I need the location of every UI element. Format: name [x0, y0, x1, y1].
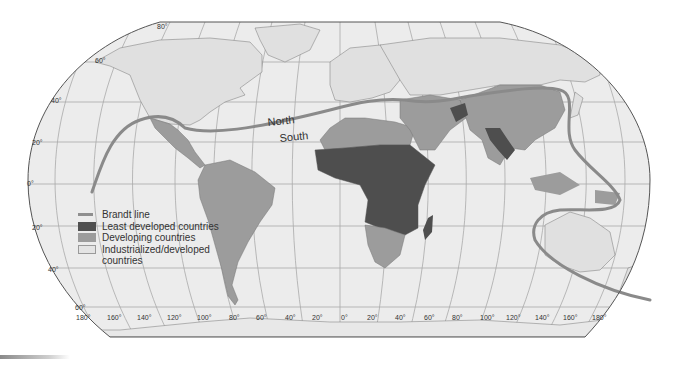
lat-label: 0°	[27, 180, 34, 187]
lon-label: 180°	[76, 314, 91, 321]
lon-label: 100°	[480, 314, 495, 321]
lat-label: 60°	[75, 304, 86, 311]
world-map: North South 80° 60° 40° 20° 0° 20° 40° 6…	[0, 0, 685, 368]
legend-item-continuation: countries	[78, 255, 219, 267]
legend-label: Least developed countries	[102, 221, 219, 233]
lon-label: 40°	[285, 314, 296, 321]
developing-swatch	[78, 233, 96, 242]
legend-item-developing: Developing countries	[78, 232, 219, 244]
lat-label: 40°	[51, 97, 62, 104]
lon-label: 0°	[341, 314, 348, 321]
legend-item-industrialized: Industrialized/developed	[78, 244, 219, 256]
legend-label: Industrialized/developed	[102, 244, 210, 256]
lon-label: 160°	[563, 314, 578, 321]
lon-label: 80°	[229, 314, 240, 321]
lat-label: 20°	[32, 224, 43, 231]
figure-caption-bar	[0, 355, 70, 359]
lon-label: 20°	[367, 314, 378, 321]
lon-label: 180°	[592, 314, 607, 321]
lat-label: 40°	[48, 266, 59, 273]
lon-label: 80°	[452, 314, 463, 321]
lon-label: 40°	[395, 314, 406, 321]
legend-label: Brandt line	[102, 209, 150, 221]
map-legend: Brandt line Least developed countries De…	[78, 209, 219, 267]
lon-label: 160°	[107, 314, 122, 321]
legend-label: countries	[102, 255, 143, 267]
least-developed-swatch	[78, 222, 96, 231]
lon-label: 60°	[424, 314, 435, 321]
lon-label: 60°	[256, 314, 267, 321]
lon-label: 120°	[506, 314, 521, 321]
lat-label: 60°	[95, 57, 106, 64]
lon-label: 140°	[535, 314, 550, 321]
brandt-line-swatch	[78, 213, 93, 216]
lon-label: 140°	[137, 314, 152, 321]
lon-label: 100°	[197, 314, 212, 321]
lon-label: 20°	[312, 314, 323, 321]
legend-item-least-developed: Least developed countries	[78, 221, 219, 233]
lat-label: 80°	[157, 23, 168, 30]
lat-label: 20°	[32, 139, 43, 146]
industrialized-swatch	[78, 245, 96, 254]
legend-label: Developing countries	[102, 232, 195, 244]
lon-label: 120°	[167, 314, 182, 321]
legend-item-brandt-line: Brandt line	[78, 209, 219, 221]
